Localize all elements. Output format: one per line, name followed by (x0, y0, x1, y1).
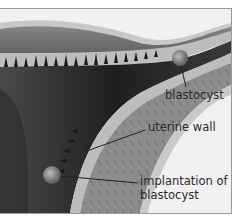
implantation-label-line1: implantation of (140, 175, 228, 188)
implantation-label-line2: blastocyst (140, 189, 199, 202)
uterine-wall-label: uterine wall (148, 121, 216, 134)
diagram-frame: blastocyst uterine wall implantation of … (0, 8, 232, 214)
blastocyst-label: blastocyst (165, 89, 224, 102)
blastocyst-top (172, 50, 188, 66)
